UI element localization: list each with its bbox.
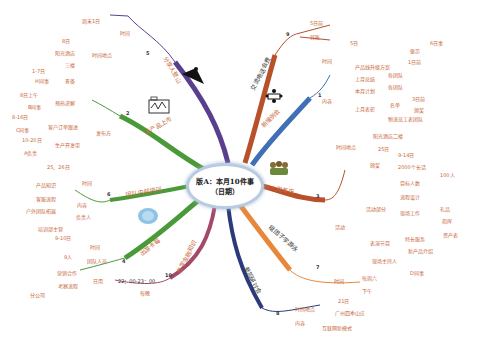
branch-8-tp1[interactable]: 21日 xyxy=(338,298,349,304)
globe-icon xyxy=(137,207,159,225)
branch-6-owner-value[interactable]: 培训部主管 xyxy=(38,226,63,232)
branch-4-people-value[interactable]: 9人 xyxy=(64,254,72,260)
branch-1-number: 1 xyxy=(318,92,321,98)
branch-9-number: 9 xyxy=(286,31,289,37)
branch-6-content-1[interactable]: 产品知识 xyxy=(36,182,56,188)
branch-9-item-a[interactable]: 5日前 xyxy=(310,20,323,26)
branch-3-pre-1[interactable]: 9-14日 xyxy=(398,152,414,158)
branch-1-this-month-label[interactable]: 本月计划 xyxy=(355,88,375,94)
branch-4-cost-label[interactable]: 日用 xyxy=(93,278,103,284)
branch-7-time-label[interactable]: 时间 xyxy=(334,278,344,284)
branch-2-prod-label[interactable]: 生产开发带 xyxy=(55,142,80,148)
branch-6-time-value[interactable]: 25、26日 xyxy=(47,164,70,170)
branch-3-number: 3 xyxy=(316,193,319,199)
branch-10-time-value[interactable]: 22：00-23：00 xyxy=(118,278,155,284)
branch-3-ev3-label[interactable]: 现场工作 xyxy=(400,210,420,216)
branch-2-prep-team[interactable]: H同事 xyxy=(35,78,49,84)
branch-4-cost-a[interactable]: 营销合作 xyxy=(57,270,77,276)
branch-6-content-2[interactable]: 客服流程 xyxy=(36,196,56,202)
branch-1-people-a[interactable]: 名单 xyxy=(390,102,400,108)
branch-2-time-place-label[interactable]: 时间地点 xyxy=(92,52,112,58)
branch-2-plan-label[interactable]: 预热讲解 xyxy=(55,100,75,106)
branch-1-plan-a-value[interactable]: 6日事 xyxy=(430,40,443,46)
branch-6-content-3[interactable]: 户外团队拓展 xyxy=(26,208,56,214)
branch-2-publish-label[interactable]: 发布方 xyxy=(96,130,111,136)
branch-3-ev1-value[interactable]: 100人 xyxy=(440,172,455,178)
branch-2-prod-team[interactable]: A负责 xyxy=(24,150,37,156)
branch-1-time-label[interactable]: 时间 xyxy=(322,58,332,64)
branch-4-cost-b[interactable]: 考察流程 xyxy=(58,283,78,289)
branch-8-tp2[interactable]: 广州四季山庄 xyxy=(335,310,365,316)
branch-1-plan-b[interactable]: 1日前 xyxy=(408,59,421,65)
branch-9-item-b[interactable]: 转账 xyxy=(310,34,320,40)
branch-1-people-label[interactable]: 上月表彰 xyxy=(355,106,375,112)
branch-6-content-label[interactable]: 内容 xyxy=(77,202,87,208)
branch-3-event-label[interactable]: 活动部分 xyxy=(366,206,386,212)
branch-6-owner-label[interactable]: 负责人 xyxy=(76,214,91,220)
branch-1-people-a1[interactable]: 3日前 xyxy=(412,96,425,102)
branch-2-prep-label[interactable]: 筹备 xyxy=(65,78,75,84)
branch-8-content-value[interactable]: 互联网新模式 xyxy=(322,325,352,331)
branch-4-number: 4 xyxy=(122,258,125,264)
branch-2-tp1[interactable]: 8日 xyxy=(62,38,70,44)
branch-3-tp2[interactable]: 25日 xyxy=(378,146,389,152)
meeting-icon xyxy=(264,88,284,106)
central-topic-title: 版A：本月10件事 xyxy=(196,176,253,186)
branch-3-ev3-a[interactable]: 礼品 xyxy=(440,206,450,212)
branch-3-tp1[interactable]: 阳光酒店二楼 xyxy=(373,133,403,139)
branch-8-content-label[interactable]: 内容 xyxy=(295,320,305,326)
central-topic-date: （日期） xyxy=(211,186,239,196)
central-topic[interactable]: 版A：本月10件事 （日期） xyxy=(186,163,264,209)
branch-2-plan-date[interactable]: 8日上午 xyxy=(20,92,38,98)
branch-1-this-month-value[interactable]: 各团队 xyxy=(388,84,403,90)
branch-3-show-a-value[interactable]: 资产表 xyxy=(443,232,458,238)
branch-3-show-a[interactable]: 特长服务 xyxy=(405,236,425,242)
branch-2-tp2[interactable]: 阳光酒店 xyxy=(55,50,75,56)
branch-2-prep-date[interactable]: 1-7日 xyxy=(32,68,45,74)
branch-3-ev2-label[interactable]: 流程设计 xyxy=(400,194,420,200)
branch-8-tp-label[interactable]: 时间地点 xyxy=(295,306,315,312)
branch-2-order-label[interactable]: 客户订单跟进 xyxy=(48,124,78,130)
branch-6-time-label[interactable]: 时间 xyxy=(82,180,92,186)
branch-2-order-team[interactable]: C同事 xyxy=(16,127,30,133)
branch-1-plan-label[interactable]: 产品线升级方案 xyxy=(355,64,390,70)
branch-3-ev3-b[interactable]: 指挥 xyxy=(442,218,452,224)
branch-3-show-label[interactable]: 表演节目 xyxy=(370,240,390,246)
branch-7-number: 7 xyxy=(316,264,319,270)
branch-2-order-date[interactable]: 8-16日 xyxy=(12,114,28,120)
branch-10-frequency[interactable]: 每晚 xyxy=(140,290,150,296)
branch-3-show-b[interactable]: 新产品介绍 xyxy=(408,248,433,254)
branch-5-number: 5 xyxy=(146,50,149,56)
branch-4-cost-c[interactable]: 分公司 xyxy=(30,292,45,298)
branch-1-people-b[interactable]: 物流员工表团队 xyxy=(388,116,423,122)
branch-3-pre-2[interactable]: 2000个长话 xyxy=(398,164,426,170)
branch-8-number: 8 xyxy=(276,310,279,316)
branch-1-time-value[interactable]: 5日 xyxy=(350,40,358,46)
branch-3-activity-label[interactable]: 活动 xyxy=(335,224,345,230)
branch-6-number: 6 xyxy=(107,191,110,197)
branch-5-time-value[interactable]: 周末1日 xyxy=(82,18,100,24)
mountain-icon xyxy=(182,66,206,86)
branch-7-time-sub[interactable]: 下午 xyxy=(362,288,372,294)
branch-1-plan-a[interactable]: 驱示 xyxy=(410,48,420,54)
branch-7-time-value[interactable]: 每周六 xyxy=(362,275,377,281)
team-people-icon xyxy=(268,160,290,176)
branch-1-last-month-value[interactable]: 各团队 xyxy=(388,72,403,78)
branch-5-time-label[interactable]: 时间 xyxy=(120,30,130,36)
branch-4-people-label[interactable]: 团队人员 xyxy=(87,258,107,264)
branch-3-tp-label[interactable]: 时间地点 xyxy=(336,144,356,150)
branch-3-pre-label[interactable]: 颁奖 xyxy=(370,162,380,168)
branch-1-people-a2[interactable]: 颁奖 xyxy=(414,107,424,113)
branch-1-last-month-label[interactable]: 上月总结 xyxy=(355,76,375,82)
branch-4-time-value[interactable]: 9-10日 xyxy=(55,235,71,241)
branch-2-tp3[interactable]: 三楼 xyxy=(65,62,75,68)
branch-3-host-value[interactable]: D同事 xyxy=(410,270,424,276)
branch-1-content-label[interactable]: 内容 xyxy=(322,98,332,104)
branch-3-ev1-label[interactable]: 目标人数 xyxy=(400,180,420,186)
branch-4-time-label[interactable]: 时间 xyxy=(90,244,100,250)
branch-10-number: 10 xyxy=(165,272,172,278)
calendar-chart-icon xyxy=(148,96,170,114)
branch-3-host-label[interactable]: 现场主持人 xyxy=(372,258,397,264)
branch-2-plan-team[interactable]: B同事 xyxy=(28,104,41,110)
branch-2-prod-date[interactable]: 10-20日 xyxy=(22,137,42,143)
